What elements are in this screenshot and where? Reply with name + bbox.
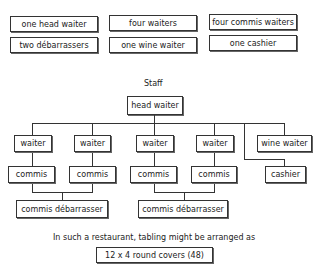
connector bbox=[154, 183, 155, 192]
summary-commis-waiters: four commis waiters bbox=[209, 14, 297, 30]
connector bbox=[92, 123, 93, 135]
connector bbox=[92, 152, 93, 166]
commis-node: commis bbox=[130, 166, 177, 183]
head-waiter-node: head waiter bbox=[127, 96, 183, 115]
wine-waiter-node: wine waiter bbox=[257, 135, 312, 152]
summary-wine-waiter: one wine waiter bbox=[109, 37, 197, 53]
connector bbox=[284, 159, 285, 166]
connector bbox=[154, 115, 155, 123]
connector bbox=[32, 123, 285, 124]
tabling-sentence: In such a restaurant, tabling might be a… bbox=[53, 233, 255, 242]
connector bbox=[184, 192, 185, 200]
connector bbox=[32, 183, 33, 192]
waiter-node: waiter bbox=[196, 135, 234, 152]
waiter-node: waiter bbox=[74, 135, 111, 152]
summary-cashier: one cashier bbox=[209, 35, 297, 51]
commis-node: commis bbox=[69, 166, 116, 183]
waiter-node: waiter bbox=[136, 135, 174, 152]
debarrasser-node: commis débarrasser bbox=[138, 200, 228, 218]
chart-title: Staff bbox=[144, 79, 163, 88]
connector bbox=[154, 152, 155, 166]
waiter-node: waiter bbox=[14, 135, 52, 152]
connector bbox=[32, 123, 33, 135]
summary-head-waiter: one head waiter bbox=[10, 16, 98, 32]
connector bbox=[284, 123, 285, 135]
connector bbox=[92, 183, 93, 192]
connector bbox=[214, 152, 215, 166]
connector bbox=[62, 192, 63, 200]
connector bbox=[32, 152, 33, 166]
connector bbox=[244, 159, 285, 160]
cashier-node: cashier bbox=[265, 166, 306, 183]
commis-node: commis bbox=[191, 166, 237, 183]
connector bbox=[214, 183, 215, 192]
summary-waiters: four waiters bbox=[109, 15, 197, 31]
commis-node: commis bbox=[8, 166, 55, 183]
connector bbox=[154, 123, 155, 135]
connector bbox=[214, 123, 215, 135]
debarrasser-node: commis débarrasser bbox=[16, 200, 108, 218]
connector bbox=[244, 123, 245, 159]
summary-debarrassers: two débarrassers bbox=[10, 37, 98, 53]
tabling-box: 12 x 4 round covers (48) bbox=[96, 247, 213, 263]
